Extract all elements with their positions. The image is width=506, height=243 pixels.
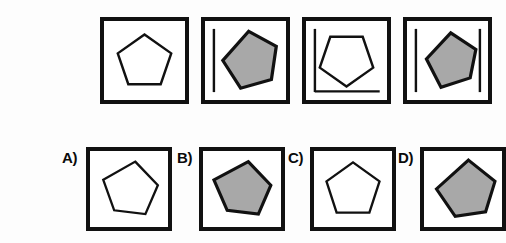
prompt-panel-1-graphic	[104, 21, 185, 100]
prompt-panel-2	[201, 17, 290, 104]
pentagon-shape	[118, 34, 171, 84]
option-d-label: D)	[398, 150, 413, 165]
pentagon-shape	[426, 33, 475, 88]
pentagon-shape	[214, 162, 271, 214]
option-a[interactable]	[86, 147, 172, 231]
option-b-graphic	[203, 151, 281, 227]
prompt-panel-2-graphic	[205, 21, 286, 100]
pentagon-shape	[320, 37, 373, 87]
prompt-panel-4-graphic	[407, 21, 488, 100]
pentagon-shape	[103, 162, 158, 214]
prompt-panel-4	[403, 17, 492, 104]
option-a-label: A)	[62, 150, 77, 165]
prompt-panel-3-graphic	[306, 21, 387, 100]
pentagon-shape	[436, 160, 495, 216]
pentagon-shape	[223, 31, 276, 88]
prompt-panel-1	[100, 17, 189, 104]
option-d-graphic	[424, 151, 502, 227]
option-c-graphic	[314, 151, 392, 227]
option-b-label: B)	[177, 150, 192, 165]
option-d[interactable]	[420, 147, 506, 231]
prompt-panel-3	[302, 17, 391, 104]
option-c[interactable]	[310, 147, 396, 231]
pentagon-shape	[326, 162, 379, 212]
option-c-label: C)	[288, 150, 303, 165]
option-a-graphic	[90, 151, 168, 227]
option-b[interactable]	[199, 147, 285, 231]
